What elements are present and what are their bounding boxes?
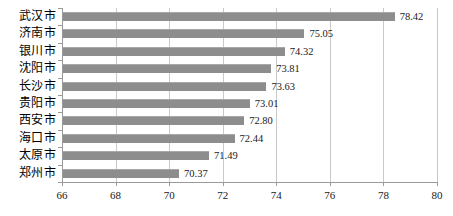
y-axis-line (62, 8, 63, 182)
x-axis-tick-label: 78 (378, 189, 389, 201)
category-label: 海口市 (19, 130, 57, 147)
x-axis-tick (62, 182, 63, 186)
bar (62, 47, 285, 56)
category-label: 贵阳市 (19, 95, 57, 112)
bar (62, 12, 395, 21)
y-axis-tick (58, 25, 62, 26)
y-axis-tick (58, 60, 62, 61)
y-axis-tick (58, 112, 62, 113)
category-label-row: 海口市 (0, 130, 56, 147)
bar-value-label: 73.01 (255, 96, 279, 111)
bar-value-label: 75.05 (309, 26, 333, 41)
bar-row: 73.81 (62, 60, 437, 77)
x-axis-tick (383, 182, 384, 186)
x-axis-tick-label: 66 (57, 189, 68, 201)
bar-value-label: 73.63 (271, 79, 295, 94)
y-axis-tick (58, 8, 62, 9)
category-label: 长沙市 (19, 78, 57, 95)
bar-row: 72.44 (62, 130, 437, 147)
category-label-row: 沈阳市 (0, 60, 56, 77)
y-axis-tick (58, 147, 62, 148)
y-axis-tick (58, 165, 62, 166)
plot-area: 78.4275.0574.3273.8173.6373.0172.8072.44… (62, 8, 437, 182)
bar (62, 64, 271, 73)
category-label: 银川市 (19, 43, 57, 60)
bar-row: 74.32 (62, 43, 437, 60)
bar-row: 70.37 (62, 165, 437, 182)
x-axis-tick (169, 182, 170, 186)
x-axis-tick (276, 182, 277, 186)
y-axis-tick (58, 95, 62, 96)
category-label-row: 长沙市 (0, 78, 56, 95)
category-label: 西安市 (19, 112, 57, 129)
x-axis-line (62, 182, 438, 183)
bar (62, 82, 266, 91)
bar-value-label: 73.81 (276, 61, 300, 76)
bar-row: 75.05 (62, 25, 437, 42)
gridline (437, 8, 438, 182)
category-label-row: 西安市 (0, 112, 56, 129)
x-axis-tick (330, 182, 331, 186)
y-axis-tick (58, 43, 62, 44)
category-label-row: 贵阳市 (0, 95, 56, 112)
x-axis-tick (437, 182, 438, 186)
category-label-row: 武汉市 (0, 8, 56, 25)
category-label-row: 太原市 (0, 147, 56, 164)
x-axis-tick-label: 80 (432, 189, 443, 201)
x-axis-tick (116, 182, 117, 186)
category-label-row: 银川市 (0, 43, 56, 60)
bar (62, 29, 304, 38)
bar (62, 99, 250, 108)
bar-value-label: 70.37 (184, 166, 208, 181)
category-label: 郑州市 (19, 165, 57, 182)
bar-value-label: 78.42 (400, 9, 424, 24)
bar-row: 78.42 (62, 8, 437, 25)
category-label: 太原市 (19, 147, 57, 164)
y-axis-tick (58, 78, 62, 79)
bar-row: 72.80 (62, 112, 437, 129)
bar (62, 169, 179, 178)
x-axis-tick-label: 76 (324, 189, 335, 201)
bar-value-label: 74.32 (290, 44, 314, 59)
bar-row: 73.63 (62, 78, 437, 95)
x-axis-tick-label: 68 (110, 189, 121, 201)
bar-value-label: 72.80 (249, 113, 273, 128)
category-label: 济南市 (19, 25, 57, 42)
bar-value-label: 71.49 (214, 148, 238, 163)
category-label-row: 郑州市 (0, 165, 56, 182)
x-axis-tick-label: 74 (271, 189, 282, 201)
bar-row: 71.49 (62, 147, 437, 164)
category-label: 武汉市 (19, 8, 57, 25)
category-label-row: 济南市 (0, 25, 56, 42)
bar (62, 134, 235, 143)
bar-chart: 78.4275.0574.3273.8173.6373.0172.8072.44… (0, 0, 453, 216)
y-axis-tick (58, 182, 62, 183)
bar-value-label: 72.44 (240, 131, 264, 146)
bar-row: 73.01 (62, 95, 437, 112)
x-axis-tick-label: 72 (217, 189, 228, 201)
bar (62, 116, 244, 125)
x-axis-tick (223, 182, 224, 186)
bar (62, 151, 209, 160)
category-label: 沈阳市 (19, 60, 57, 77)
y-axis-tick (58, 130, 62, 131)
x-axis-tick-label: 70 (164, 189, 175, 201)
